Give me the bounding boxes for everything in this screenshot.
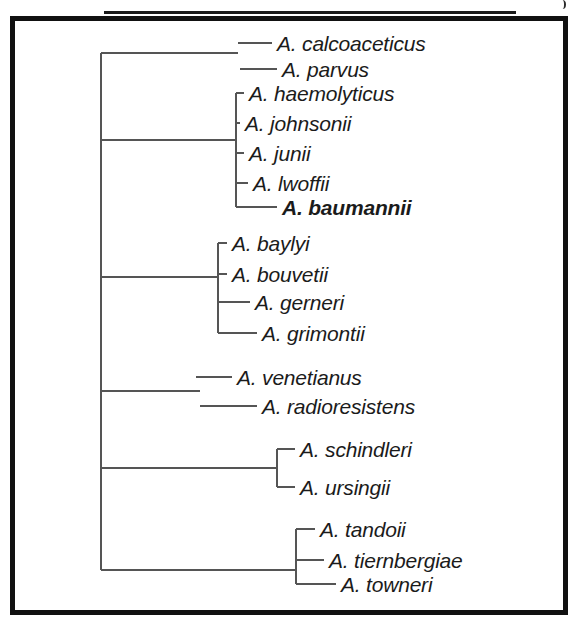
- figure-page: A. calcoaceticusA. parvusA. haemolyticus…: [0, 0, 580, 628]
- taxon-label-ursingii: A. ursingii: [300, 477, 390, 498]
- taxon-label-baylyi: A. baylyi: [232, 233, 310, 254]
- taxon-label-venetianus: A. venetianus: [237, 367, 362, 388]
- taxon-label-gerneri: A. gerneri: [255, 292, 344, 313]
- taxon-label-tandoii: A. tandoii: [320, 519, 406, 540]
- taxon-label-lwoffii: A. lwoffii: [253, 173, 329, 194]
- taxon-label-haemolyticus: A. haemolyticus: [249, 83, 394, 104]
- taxon-label-bouvetii: A. bouvetii: [232, 264, 328, 285]
- taxon-label-parvus: A. parvus: [282, 59, 369, 80]
- taxon-label-junii: A. junii: [249, 143, 310, 164]
- taxon-label-radioresistens: A. radioresistens: [262, 396, 415, 417]
- taxon-label-towneri: A. towneri: [341, 574, 432, 595]
- taxon-label-calcoaceticus: A. calcoaceticus: [277, 33, 426, 54]
- taxon-label-baumannii: A. baumannii: [282, 197, 411, 218]
- taxon-label-schindleri: A. schindleri: [300, 439, 412, 460]
- taxon-label-johnsonii: A. johnsonii: [245, 113, 351, 134]
- taxon-label-grimontii: A. grimontii: [262, 323, 365, 344]
- taxon-label-tiernbergiae: A. tiernbergiae: [329, 550, 463, 571]
